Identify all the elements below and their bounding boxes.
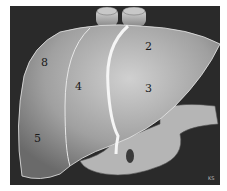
segment-label-3: 3 (145, 82, 152, 95)
vena-cava-icon (96, 7, 146, 26)
segment-label-2: 2 (145, 40, 152, 53)
liver-illustration (10, 6, 220, 185)
artist-signature: KS (208, 175, 214, 181)
illustration-frame (10, 6, 220, 185)
segment-label-8: 8 (41, 56, 48, 69)
segment-label-5: 5 (34, 132, 41, 145)
segment-label-4: 4 (75, 80, 82, 93)
